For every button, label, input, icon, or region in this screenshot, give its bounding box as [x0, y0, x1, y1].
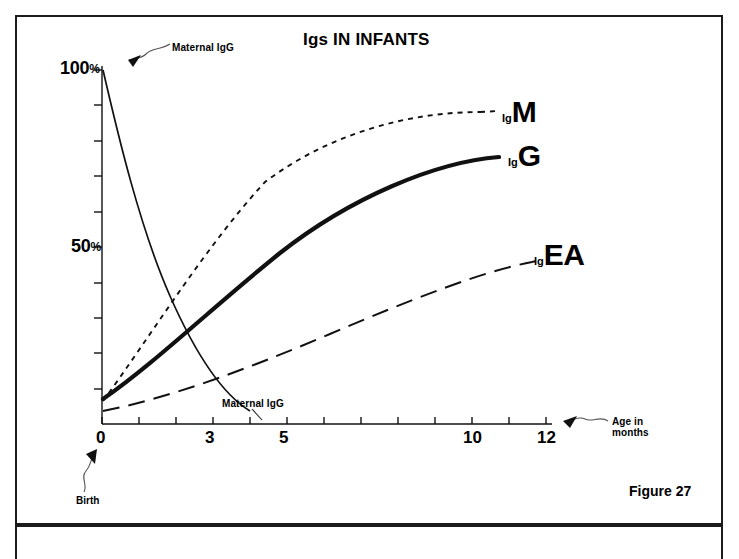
x-axis-label-3: 3: [205, 428, 214, 448]
annotation-age-line1: Age in: [612, 416, 643, 427]
series-label-igg: IgG: [508, 139, 541, 173]
series-label-igea: IgEA: [534, 238, 584, 272]
x-axis-label-5: 5: [279, 428, 288, 448]
x-axis-label-10: 10: [463, 428, 482, 448]
curve-igea: [103, 262, 532, 411]
arrowhead-birth: [86, 449, 97, 464]
series-label-igm-main: M: [512, 95, 537, 128]
y-axis-label-100-value: 100: [60, 58, 89, 78]
arrowhead-age-in-months: [563, 416, 577, 428]
annotation-age-in-months: Age inmonths: [612, 416, 682, 438]
x-axis-label-12: 12: [537, 428, 556, 448]
y-axis-ticks: [94, 70, 102, 389]
x-axis-label-0: 0: [96, 428, 105, 448]
curve-maternal-igg: [103, 70, 250, 411]
series-label-igg-prefix: Ig: [508, 156, 518, 168]
annotation-maternal-igg-bottom: Maternal IgG: [222, 398, 284, 409]
annotation-maternal-igg-top: Maternal IgG: [172, 42, 234, 53]
figure-caption: Figure 27: [629, 483, 691, 499]
series-label-igm-prefix: Ig: [502, 112, 512, 124]
annotation-birth: Birth: [76, 495, 99, 506]
x-axis-ticks: [102, 417, 546, 424]
series-label-igm: IgM: [502, 95, 536, 129]
percent-sign: %: [89, 62, 99, 76]
series-label-igea-prefix: Ig: [534, 255, 544, 267]
annotation-age-line2: months: [612, 427, 649, 438]
leader-igm-label: [480, 111, 498, 112]
percent-sign: %: [90, 240, 100, 254]
y-axis-label-50-value: 50: [71, 236, 90, 256]
series-label-igea-main: EA: [544, 238, 585, 271]
chart-title: Igs IN INFANTS: [303, 30, 430, 50]
y-axis-label-100: 100%: [60, 58, 100, 79]
leader-maternal-igg-bottom: [252, 409, 262, 420]
series-label-igg-main: G: [518, 139, 541, 172]
arrowhead-maternal-igg-top: [128, 55, 141, 67]
y-axis-label-50: 50%: [71, 236, 101, 257]
